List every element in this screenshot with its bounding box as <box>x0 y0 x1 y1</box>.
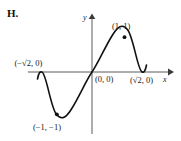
origin-label: (0, 0) <box>95 74 114 84</box>
graph-canvas: (−√2, 0) (0, 0) (√2, 0) (1, 1) (−1, −1) … <box>0 0 181 141</box>
min-point-dot <box>55 112 59 116</box>
max-point-dot <box>123 35 127 39</box>
right-root-label: (√2, 0) <box>130 75 153 85</box>
y-axis-label: y <box>82 13 87 22</box>
y-axis-arrow-icon <box>89 14 96 20</box>
max-point-label: (1, 1) <box>112 21 131 31</box>
min-point-label: (−1, −1) <box>33 122 61 132</box>
x-axis-label: x <box>162 75 167 84</box>
x-axis-arrow-icon <box>168 69 174 76</box>
left-root-label: (−√2, 0) <box>15 58 43 68</box>
figure-panel: H. (−√2, 0) (0, 0) (√2, 0) (1, 1) (−1, −… <box>0 0 181 141</box>
